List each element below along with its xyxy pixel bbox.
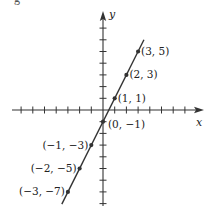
x-axis-label: x xyxy=(196,116,203,129)
data-point xyxy=(101,120,105,124)
y-axis-label: y xyxy=(108,8,116,21)
data-point xyxy=(89,143,93,147)
point-label: (2, 3) xyxy=(129,68,157,80)
coordinate-plot: (−3, −7)(−2, −5)(−1, −3)(0, −1)(1, 1)(2,… xyxy=(0,0,214,213)
data-point xyxy=(66,190,70,194)
point-label: (−3, −7) xyxy=(19,185,65,197)
data-point xyxy=(113,96,117,100)
point-label: (0, −1) xyxy=(108,118,145,130)
point-label: (1, 1) xyxy=(118,92,146,104)
point-label: (−1, −3) xyxy=(42,139,88,151)
axes xyxy=(12,11,204,206)
point-label: (3, 5) xyxy=(141,45,169,57)
point-label: (−2, −5) xyxy=(31,162,77,174)
data-point xyxy=(78,166,82,170)
data-point xyxy=(136,49,140,53)
data-point xyxy=(124,73,128,77)
data-points: (−3, −7)(−2, −5)(−1, −3)(0, −1)(1, 1)(2,… xyxy=(19,45,169,197)
